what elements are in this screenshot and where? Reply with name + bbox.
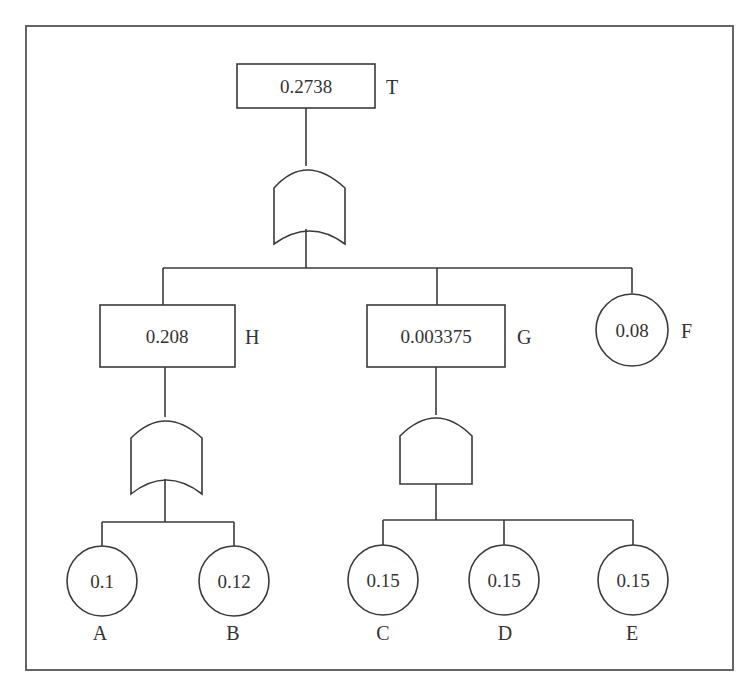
basic-event-d: 0.15 D <box>469 545 539 644</box>
event-a-label: A <box>93 622 108 644</box>
event-d-value: 0.15 <box>487 570 520 591</box>
and-gate-icon <box>400 418 472 484</box>
event-e-value: 0.15 <box>616 570 649 591</box>
basic-event-e: 0.15 E <box>598 545 668 644</box>
top-event-value: 0.2738 <box>280 76 332 97</box>
basic-event-f: 0.08 F <box>596 294 692 366</box>
event-f-value: 0.08 <box>615 320 648 341</box>
fault-tree-diagram: 0.2738 T 0.208 H 0.003375 G 0.08 F 0.1 A <box>0 0 755 696</box>
event-d-label: D <box>498 622 512 644</box>
event-f-label: F <box>681 320 692 342</box>
event-g-label: G <box>517 326 531 348</box>
event-b-label: B <box>226 622 239 644</box>
event-a-value: 0.1 <box>90 571 114 592</box>
top-event-label: T <box>386 76 398 98</box>
intermediate-event-h: 0.208 H <box>100 305 259 367</box>
intermediate-event-g: 0.003375 G <box>367 305 531 367</box>
event-e-label: E <box>626 622 638 644</box>
event-g-value: 0.003375 <box>400 326 471 347</box>
event-b-value: 0.12 <box>217 571 250 592</box>
event-c-label: C <box>376 622 389 644</box>
event-h-value: 0.208 <box>146 326 189 347</box>
basic-event-a: 0.1 A <box>67 546 137 644</box>
basic-event-b: 0.12 B <box>199 546 269 644</box>
or-gate-icon <box>131 421 202 494</box>
event-c-value: 0.15 <box>366 570 399 591</box>
or-gate-icon <box>274 170 345 244</box>
event-h-label: H <box>245 326 259 348</box>
basic-event-c: 0.15 C <box>348 545 418 644</box>
top-event-t: 0.2738 T <box>237 64 398 108</box>
